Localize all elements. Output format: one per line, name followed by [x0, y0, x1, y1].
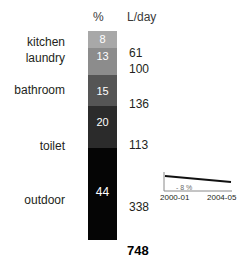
category-label-laundry: laundry — [26, 51, 65, 65]
value-litres-bathroom: 136 — [129, 97, 149, 111]
bar-segment-percent-bathroom: 15 — [88, 86, 117, 97]
bar-segment-bathroom: 15 — [88, 75, 117, 106]
trend-inset-chart: - 8 % 2000-01 2004-05 — [160, 170, 244, 208]
value-litres-outdoor: 338 — [129, 200, 149, 214]
category-label-outdoor: outdoor — [24, 193, 65, 207]
value-litres-toilet: 113 — [129, 138, 148, 152]
trend-x-label-start: 2000-01 — [160, 193, 189, 202]
trend-line — [165, 176, 231, 182]
trend-change-label: - 8 % — [176, 184, 192, 191]
bar-segment-percent-outdoor: 44 — [88, 186, 117, 198]
value-litres-laundry: 100 — [129, 62, 149, 76]
trend-sparkline-svg — [160, 170, 244, 208]
bar-segment-kitchen: 8 — [88, 31, 117, 48]
category-label-toilet: toilet — [40, 139, 65, 153]
bar-segment-toilet: 20 — [88, 106, 117, 148]
category-label-bathroom: bathroom — [14, 83, 65, 97]
bar-segment-outdoor: 44 — [88, 148, 117, 240]
bar-segment-percent-laundry: 13 — [88, 51, 117, 62]
stacked-bar: 8 13 15 20 44 — [88, 31, 117, 240]
bar-segment-laundry: 13 — [88, 48, 117, 75]
value-litres-kitchen: 61 — [129, 46, 142, 60]
category-label-kitchen: kitchen — [27, 35, 65, 49]
bar-segment-percent-kitchen: 8 — [88, 34, 117, 45]
column-header-percent: % — [93, 10, 104, 24]
total-litres-per-day: 748 — [127, 243, 149, 258]
column-header-litres-per-day: L/day — [127, 10, 156, 24]
bar-segment-percent-toilet: 20 — [88, 117, 117, 128]
water-use-stacked-bar-figure: % L/day kitchen laundry bathroom toilet … — [0, 0, 247, 272]
trend-x-label-end: 2004-05 — [207, 193, 236, 202]
